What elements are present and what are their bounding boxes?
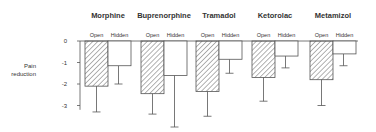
bar-hidden: [333, 41, 356, 54]
bar-open: [196, 41, 219, 92]
y-tick-label: -3: [62, 103, 68, 109]
bar-chart: Painreduction 0-1-2-3 MorphineOpenHidden…: [0, 0, 376, 132]
condition-label: Hidden: [278, 32, 295, 38]
group-title: Tramadol: [202, 11, 235, 20]
group-metamizol: MetamizolOpenHidden: [310, 11, 356, 106]
bar-open: [310, 41, 333, 80]
bar-hidden: [108, 41, 131, 66]
y-axis-label-line: Pain: [24, 63, 36, 69]
condition-label: Open: [90, 32, 103, 38]
group-title: Ketorolac: [258, 11, 293, 20]
condition-label: Open: [257, 32, 270, 38]
group-title: Morphine: [91, 11, 125, 20]
group-buprenorphine: BuprenorphineOpenHidden: [137, 11, 191, 127]
y-axis-label: Painreduction: [11, 63, 36, 77]
condition-label: Open: [201, 32, 214, 38]
bar-open: [85, 41, 108, 86]
bar-open: [141, 41, 164, 94]
group-morphine: MorphineOpenHidden: [85, 11, 131, 112]
group-title: Metamizol: [315, 11, 351, 20]
bar-hidden: [275, 41, 298, 56]
group-ketorolac: KetorolacOpenHidden: [252, 11, 298, 101]
bar-hidden: [219, 41, 242, 59]
condition-label: Hidden: [336, 32, 353, 38]
condition-label: Open: [146, 32, 159, 38]
bar-hidden: [164, 41, 187, 75]
condition-label: Hidden: [222, 32, 239, 38]
condition-label: Hidden: [111, 32, 128, 38]
condition-label: Open: [315, 32, 328, 38]
condition-label: Hidden: [167, 32, 184, 38]
bar-groups: MorphineOpenHiddenBuprenorphineOpenHidde…: [85, 11, 356, 127]
y-tick-label: 0: [64, 38, 68, 44]
y-tick-label: -2: [62, 81, 68, 87]
y-axis-label-line: reduction: [11, 71, 36, 77]
y-tick-label: -1: [62, 60, 68, 66]
group-tramadol: TramadolOpenHidden: [196, 11, 242, 116]
bar-open: [252, 41, 275, 78]
group-title: Buprenorphine: [137, 11, 191, 20]
